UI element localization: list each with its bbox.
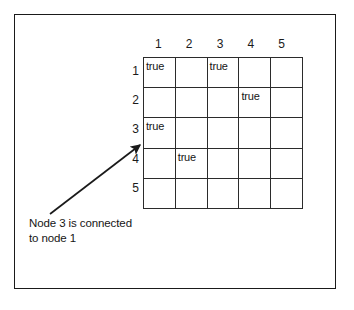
table-row bbox=[144, 178, 303, 208]
cell-label bbox=[271, 58, 302, 60]
matrix-cell-r3c5 bbox=[271, 118, 303, 148]
matrix-cell-r1c1: true bbox=[144, 58, 176, 88]
matrix-cell-r2c1 bbox=[144, 88, 176, 118]
matrix-grid: true true true true bbox=[143, 57, 303, 209]
cell-label: true bbox=[144, 58, 175, 73]
matrix-cell-r3c1: true bbox=[144, 118, 176, 148]
column-header-4: 4 bbox=[235, 34, 266, 54]
matrix-cell-r4c1 bbox=[144, 148, 176, 178]
matrix-cell-r4c5 bbox=[271, 148, 303, 178]
cell-label: true bbox=[239, 88, 270, 103]
cell-label bbox=[208, 88, 239, 90]
matrix-cell-r4c3 bbox=[207, 148, 239, 178]
matrix-cell-r2c2 bbox=[175, 88, 207, 118]
cell-label bbox=[271, 88, 302, 90]
matrix-cell-r5c3 bbox=[207, 178, 239, 208]
matrix-cell-r5c5 bbox=[271, 178, 303, 208]
column-header-2: 2 bbox=[174, 34, 205, 54]
column-header-3: 3 bbox=[205, 34, 236, 54]
cell-label bbox=[239, 149, 270, 151]
matrix-row-headers: 1 2 3 4 5 bbox=[120, 57, 139, 203]
cell-label bbox=[176, 179, 207, 181]
matrix-column-headers: 1 2 3 4 5 bbox=[143, 34, 297, 54]
row-header-5: 5 bbox=[120, 174, 139, 203]
cell-label bbox=[271, 118, 302, 120]
caption-line-2: to node 1 bbox=[29, 231, 189, 246]
caption-line-1: Node 3 is connected bbox=[29, 216, 189, 231]
cell-label bbox=[208, 118, 239, 120]
matrix-cell-r1c4 bbox=[239, 58, 271, 88]
matrix-cell-r3c2 bbox=[175, 118, 207, 148]
cell-label bbox=[176, 88, 207, 90]
cell-label bbox=[239, 58, 270, 60]
column-header-5: 5 bbox=[266, 34, 297, 54]
cell-label bbox=[144, 88, 175, 90]
cell-label bbox=[208, 149, 239, 151]
table-row: true bbox=[144, 118, 303, 148]
row-header-3: 3 bbox=[120, 115, 139, 144]
matrix-cell-r5c4 bbox=[239, 178, 271, 208]
figure-root: 1 2 3 4 5 1 2 3 4 5 true true bbox=[0, 0, 354, 310]
table-row: true bbox=[144, 88, 303, 118]
row-header-1: 1 bbox=[120, 57, 139, 86]
matrix-cell-r2c5 bbox=[271, 88, 303, 118]
matrix-cell-r3c3 bbox=[207, 118, 239, 148]
cell-label: true bbox=[144, 118, 175, 133]
matrix-cell-r3c4 bbox=[239, 118, 271, 148]
adjacency-matrix: true true true true bbox=[143, 57, 297, 203]
cell-label bbox=[239, 179, 270, 181]
cell-label bbox=[208, 179, 239, 181]
matrix-cell-r1c5 bbox=[271, 58, 303, 88]
cell-label bbox=[239, 118, 270, 120]
matrix-cell-r5c2 bbox=[175, 178, 207, 208]
matrix-cell-r4c4 bbox=[239, 148, 271, 178]
cell-label bbox=[271, 149, 302, 151]
matrix-cell-r4c2: true bbox=[175, 148, 207, 178]
row-header-4: 4 bbox=[120, 145, 139, 174]
cell-label bbox=[144, 149, 175, 151]
cell-label bbox=[144, 179, 175, 181]
column-header-1: 1 bbox=[143, 34, 174, 54]
matrix-cell-r1c3: true bbox=[207, 58, 239, 88]
cell-label: true bbox=[208, 58, 239, 73]
cell-label bbox=[271, 179, 302, 181]
matrix-cell-r2c4: true bbox=[239, 88, 271, 118]
matrix-cell-r5c1 bbox=[144, 178, 176, 208]
cell-label bbox=[176, 58, 207, 60]
matrix-cell-r1c2 bbox=[175, 58, 207, 88]
table-row: true bbox=[144, 148, 303, 178]
table-row: true true bbox=[144, 58, 303, 88]
cell-label: true bbox=[176, 149, 207, 164]
cell-label bbox=[176, 118, 207, 120]
row-header-2: 2 bbox=[120, 86, 139, 115]
matrix-cell-r2c3 bbox=[207, 88, 239, 118]
annotation-caption: Node 3 is connected to node 1 bbox=[29, 216, 189, 246]
